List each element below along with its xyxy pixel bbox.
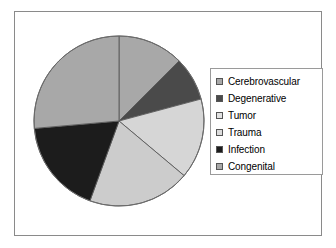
legend-item-infection[interactable]: Infection	[216, 141, 322, 158]
legend-item-cerebrovascular[interactable]: Cerebrovascular	[216, 73, 322, 90]
legend-item-tumor[interactable]: Tumor	[216, 107, 322, 124]
legend-swatch-icon-degenerative	[216, 95, 223, 102]
legend-label-degenerative: Degenerative	[228, 93, 286, 104]
legend-swatch-icon-infection	[216, 146, 223, 153]
legend-label-trauma: Trauma	[228, 127, 261, 138]
legend-item-congenital[interactable]: Congenital	[216, 158, 322, 175]
legend-item-degenerative[interactable]: Degenerative	[216, 90, 322, 107]
legend-label-infection: Infection	[228, 144, 265, 155]
legend-swatch-icon-trauma	[216, 129, 223, 136]
legend-swatch-icon-tumor	[216, 112, 223, 119]
legend-swatch-icon-cerebrovascular	[216, 78, 223, 85]
legend-label-cerebrovascular: Cerebrovascular	[228, 76, 300, 87]
legend-item-trauma[interactable]: Trauma	[216, 124, 322, 141]
pie-slice-congenital[interactable]	[34, 36, 119, 128]
legend-label-congenital: Congenital	[228, 161, 275, 172]
pie-chart-figure: Cerebrovascular Degenerative Tumor Traum…	[0, 0, 336, 248]
chart-legend: Cerebrovascular Degenerative Tumor Traum…	[210, 68, 323, 175]
pie-slice-group	[34, 36, 204, 206]
legend-swatch-icon-congenital	[216, 163, 223, 170]
legend-label-tumor: Tumor	[228, 110, 256, 121]
